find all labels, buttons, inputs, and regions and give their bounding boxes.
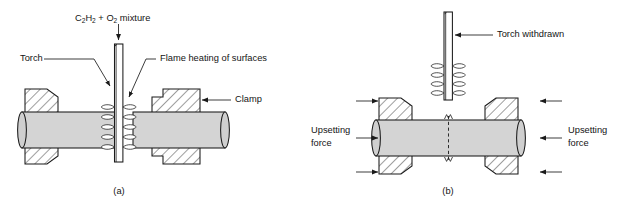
gas-mixture-label: C2H2 + O2 mixture: [75, 13, 150, 24]
upsetting-force-left-line2: force: [311, 138, 332, 148]
torch-label: Torch: [20, 53, 43, 63]
workpiece-bar-b: [372, 120, 526, 156]
gas-label-suffix: mixture: [117, 13, 150, 23]
torch-tube-a: [115, 44, 123, 162]
welding-process-diagram: C2H2 + O2 mixture Torch Flame heating of…: [0, 0, 621, 212]
upsetting-force-left-line1: Upsetting: [311, 125, 350, 135]
torch-tube-b: [444, 12, 452, 100]
clamp-label: Clamp: [235, 94, 262, 104]
workpiece-right-a: [133, 112, 229, 148]
svg-text:C2H2 + O2 mixture: C2H2 + O2 mixture: [75, 13, 150, 24]
upsetting-force-right-line1: Upsetting: [568, 125, 607, 135]
gas-label-h: H: [85, 13, 92, 23]
upsetting-force-right-line2: force: [568, 138, 589, 148]
torch-withdrawn-label: Torch withdrawn: [497, 29, 564, 39]
flame-heating-label: Flame heating of surfaces: [160, 53, 267, 63]
panel-a-caption: (a): [113, 186, 124, 196]
workpiece-left-a: [18, 112, 115, 148]
figure-root: C2H2 + O2 mixture Torch Flame heating of…: [0, 0, 621, 212]
gas-label-plus-o: + O: [96, 13, 114, 23]
panel-b-caption: (b): [442, 186, 453, 196]
